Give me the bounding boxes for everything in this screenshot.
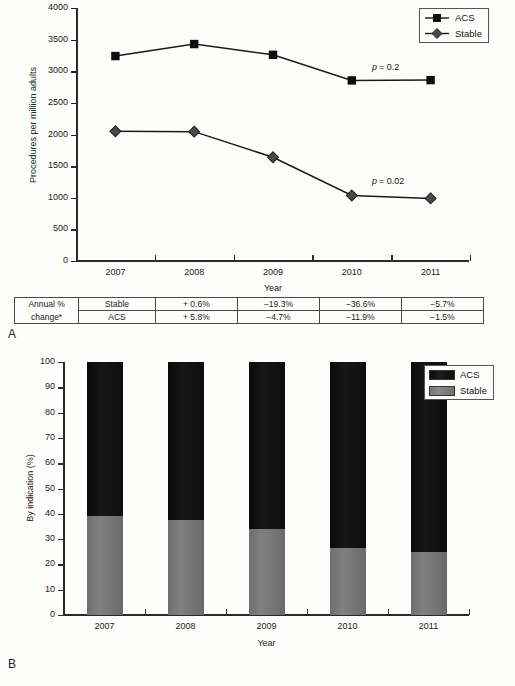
panel-a-y-tick-label: 1000 [24,192,68,202]
panel-b-y-tick-label: 50 [20,483,55,493]
panel-b-y-tick-label: 20 [20,558,55,568]
table-value-cell: −4.7% [237,311,319,324]
panel-a-y-tick-label: 3000 [24,65,68,75]
panel-a-marker-stable [268,152,279,163]
panel-a-marker-acs [269,51,277,59]
panel-a-p-value-acs: p= 0.2 [372,62,399,72]
panel-b-y-tick-label: 30 [20,533,55,543]
panel-b-x-tick-mark [307,609,308,615]
table-series-cell: Stable [79,298,156,311]
panel-a-x-tick-mark [312,255,313,261]
panel-b-y-tick-label: 70 [20,432,55,442]
panel-a-x-tick-label: 2009 [243,267,303,277]
panel-a-x-tick-mark [470,255,471,261]
panel-a-y-tick-label: 1500 [24,160,68,170]
bar-segment-stable [249,529,285,615]
bar-segment-acs [249,362,285,529]
table-row: Annual %Stable+ 0.6%−19.3%−36.6%−5.7% [15,298,484,311]
panel-b-x-tick-label: 2008 [156,621,216,631]
panel-b-x-tick-label: 2007 [75,621,135,631]
table-row-header: change* [15,311,79,324]
panel-a-y-tick-label: 3500 [24,34,68,44]
bar-segment-acs [87,362,123,516]
panel-a-plot-area [76,8,470,261]
bar-segment-acs [330,362,366,548]
panel-b-bar-2008 [168,362,204,615]
panel-b-x-tick-mark [226,609,227,615]
bar-segment-stable [330,548,366,615]
panel-a-x-tick-mark [391,255,392,261]
table-value-cell: −5.7% [401,298,483,311]
panel-a-x-tick-label: 2011 [401,267,461,277]
panel-b-stacked-bar-chart: By indication (%) 0102030405060708090100… [0,348,515,686]
panel-b-bar-2010 [330,362,366,615]
panel-a-marker-acs [348,76,356,84]
panel-a-marker-acs [190,40,198,48]
panel-b-y-tick-label: 60 [20,457,55,467]
panel-b-x-axis-title: Year [64,638,469,648]
panel-b-y-tick-label: 0 [20,609,55,619]
legend-label-acs: ACS [455,12,475,23]
p-symbol-stable: p [372,176,377,186]
panel-b-bar-2009 [249,362,285,615]
panel-b-x-tick-mark [64,609,65,615]
legend-marker-square-icon [424,13,450,23]
panel-a-p-value-stable: p= 0.02 [372,176,404,186]
table-value-cell: −1.5% [401,311,483,324]
panel-a-x-tick-mark [234,255,235,261]
panel-b-x-tick-mark [388,609,389,615]
panel-b-y-tick-label: 80 [20,407,55,417]
panel-a-y-tick-label: 2500 [24,97,68,107]
table-value-cell: −19.3% [237,298,319,311]
panel-a-line-chart: Procedures per million adults 0500100015… [0,0,515,290]
table-value-cell: + 5.8% [155,311,237,324]
table-value-cell: −11.9% [319,311,401,324]
panel-a-marker-stable [189,126,200,137]
panel-b-x-tick-mark [145,609,146,615]
legend-label-acs-b: ACS [460,369,480,380]
panel-b-y-tick-label: 10 [20,584,55,594]
legend-item-acs: ACS [424,12,482,23]
panel-b-x-tick-mark [469,609,470,615]
panel-b-legend: ACS Stable [424,365,494,400]
legend-label-stable: Stable [455,28,482,39]
legend-item-stable-b: Stable [429,385,487,396]
panel-b-label: B [8,657,17,671]
legend-marker-diamond-icon [424,28,450,39]
panel-a-x-tick-label: 2007 [85,267,145,277]
panel-b-bar-2007 [87,362,123,615]
legend-swatch-stable-icon [429,386,455,396]
panel-a-x-tick-mark [76,255,77,261]
panel-a-marker-stable [110,126,121,137]
legend-item-stable: Stable [424,28,482,39]
panel-b-y-tick-label: 40 [20,508,55,518]
table-value-cell: + 0.6% [155,298,237,311]
bar-segment-acs [168,362,204,520]
panel-a-x-axis-title: Year [76,283,470,293]
panel-a-x-tick-label: 2008 [164,267,224,277]
annual-change-table: Annual %Stable+ 0.6%−19.3%−36.6%−5.7%cha… [14,297,484,324]
panel-a-y-tick-label: 500 [24,223,68,233]
panel-a-marker-stable [425,193,436,204]
panel-b-y-tick-label: 90 [20,381,55,391]
panel-b-x-tick-label: 2011 [399,621,459,631]
panel-a-y-tick-label: 2000 [24,129,68,139]
panel-b-bars [64,362,469,615]
legend-swatch-acs-icon [429,370,455,380]
panel-b-x-tick-label: 2009 [237,621,297,631]
panel-a-label: A [8,327,17,341]
table-value-cell: −36.6% [319,298,401,311]
figure-root: Procedures per million adults 0500100015… [0,0,515,686]
legend-label-stable-b: Stable [460,385,487,396]
panel-a-marker-acs [111,52,119,60]
panel-a-legend: ACS Stable [419,8,489,43]
panel-a-marker-acs [426,76,434,84]
legend-item-acs-b: ACS [429,369,487,380]
table-series-cell: ACS [79,311,156,324]
p-symbol-acs: p [372,62,377,72]
panel-a-marker-stable [346,190,357,201]
bar-segment-stable [411,552,447,615]
p-value-acs-text: = 0.2 [379,62,399,72]
panel-a-line-stable [115,131,430,198]
panel-a-y-tick-label: 4000 [24,2,68,12]
